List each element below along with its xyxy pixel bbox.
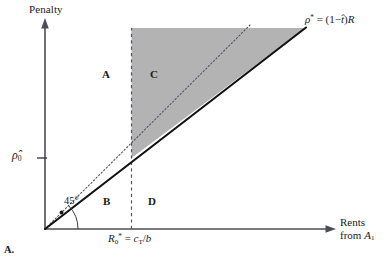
region-label-c: C [150, 69, 158, 80]
angle-vertex-dot [60, 211, 64, 215]
region-label-b: B [103, 196, 110, 207]
axis-x-title-line2: from A1 [340, 229, 374, 244]
figure-container: Penalty Rents from A1 ρ̂0 R0* = cT/b ρ* … [0, 0, 389, 264]
line-label-rho-star: ρ* = (1−t̂)R [305, 14, 354, 25]
axis-x-title: Rents from A1 [340, 216, 374, 243]
axis-x-title-line1: Rents [340, 216, 374, 229]
x-axis [45, 225, 336, 233]
region-label-a: A [102, 69, 110, 80]
panel-caption: A. [4, 245, 14, 256]
x-tick-label-r0: R0* = cT/b [108, 233, 151, 244]
axis-y-title: Penalty [29, 4, 63, 15]
penalty-rents-diagram [0, 0, 389, 264]
angle-label-45: 45° [64, 196, 79, 207]
y-axis [41, 18, 49, 229]
region-label-d: D [148, 196, 156, 207]
y-tick-label-rho0: ρ̂0 [12, 149, 22, 161]
